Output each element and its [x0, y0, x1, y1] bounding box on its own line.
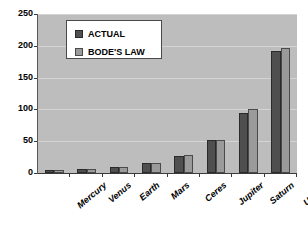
x-axis-tick-mark [102, 173, 103, 177]
x-axis-tick-mark [296, 173, 297, 177]
bar-group [232, 14, 264, 173]
x-axis-label-jupiter: Jupiter [236, 180, 265, 207]
y-axis-tick-label: 200 [0, 41, 33, 50]
bar-group [265, 14, 297, 173]
x-axis-label-mercury: Mercury [75, 180, 108, 210]
legend-swatch-icon [75, 30, 83, 38]
x-axis-tick-mark [264, 173, 265, 177]
x-axis-tick-mark [69, 173, 70, 177]
bar-venus-bode [87, 169, 96, 173]
bar-mars-actual [142, 163, 151, 173]
bar-mercury-bode [54, 170, 63, 173]
bar-group [200, 14, 232, 173]
bar-chart: 250200150100500 MercuryVenusEarthMarsCer… [0, 0, 308, 231]
bar-ceres-actual [174, 156, 183, 173]
bar-mars-bode [151, 163, 160, 173]
y-axis-tick-label: 150 [0, 73, 33, 82]
y-axis-tick-label: 50 [0, 136, 33, 145]
x-axis-tick-mark [199, 173, 200, 177]
legend-label: BODE'S LAW [88, 48, 145, 57]
x-axis-tick-mark [167, 173, 168, 177]
legend-item-bode: BODE'S LAW [75, 46, 145, 58]
bar-earth-actual [110, 167, 119, 173]
bar-jupiter-actual [207, 140, 216, 173]
bar-venus-actual [77, 169, 86, 173]
x-axis-label-saturn: Saturn [268, 180, 296, 206]
legend-swatch-icon [75, 48, 83, 56]
bar-earth-bode [119, 167, 128, 173]
bar-group [168, 14, 200, 173]
x-axis-label-mars: Mars [169, 180, 192, 201]
y-axis-tick-label: 100 [0, 104, 33, 113]
x-axis-label-ceres: Ceres [203, 180, 229, 204]
bar-mercury-actual [45, 170, 54, 173]
legend-item-actual: ACTUAL [75, 28, 125, 40]
y-axis-tick-label: 0 [0, 168, 33, 177]
bar-saturn-bode [248, 109, 257, 173]
bar-saturn-actual [239, 113, 248, 173]
x-axis-label-earth: Earth [137, 180, 161, 202]
x-axis-label-venus: Venus [106, 180, 133, 205]
chart-legend: ACTUALBODE'S LAW [66, 20, 162, 59]
x-axis-label-uranus: Uranus [301, 180, 308, 208]
bar-jupiter-bode [216, 140, 225, 173]
x-axis-tick-mark [231, 173, 232, 177]
bar-uranus-actual [271, 51, 280, 173]
bar-uranus-bode [281, 48, 290, 173]
x-axis-tick-mark [134, 173, 135, 177]
y-axis-tick-label: 250 [0, 9, 33, 18]
bar-ceres-bode [184, 155, 193, 173]
legend-label: ACTUAL [88, 30, 125, 39]
